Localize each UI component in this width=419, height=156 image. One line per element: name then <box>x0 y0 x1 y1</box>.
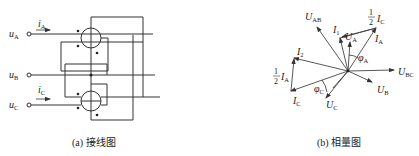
caption-b: (b) 相量图 <box>317 136 361 149</box>
angle-phi-a <box>349 55 358 58</box>
svg-text:uA: uA <box>9 28 19 40</box>
terminal-ua: uA <box>9 28 31 40</box>
terminal-uc: uC <box>9 99 31 111</box>
svg-text:2: 2 <box>369 18 373 27</box>
svg-text:1: 1 <box>369 8 373 17</box>
caption-a: (a) 接线图 <box>72 136 116 149</box>
current-ic-label: iC <box>36 84 50 99</box>
label-i2: I2 <box>296 46 304 58</box>
terminal-node-icon <box>27 32 31 36</box>
phasor-ubc <box>348 70 394 71</box>
phasor-ub <box>348 71 372 82</box>
phasor-diagram: UAB I1 UA IA 1 2 IC I2 1 2 IA IC UC UB U… <box>273 8 414 149</box>
current-ia-label: iA <box>36 18 50 30</box>
svg-text:1: 1 <box>274 67 278 76</box>
label-ia: IA <box>374 33 383 45</box>
label-uab: UAB <box>305 11 322 23</box>
terminal-ub: uB <box>9 69 31 81</box>
svg-text:uC: uC <box>9 99 18 111</box>
label-i1: I1 <box>332 24 340 36</box>
label-phi-a: φA <box>358 52 369 64</box>
phasor-ua <box>348 42 350 71</box>
svg-text:iC: iC <box>38 84 45 96</box>
label-uc: UC <box>326 99 338 111</box>
phasor-half-ia <box>291 59 294 91</box>
wattmeter-1 <box>77 28 101 54</box>
label-half-ia: 1 2 IA <box>273 67 289 86</box>
svg-text:IC: IC <box>376 13 385 25</box>
label-ub: UB <box>377 84 389 96</box>
terminal-node-icon <box>27 73 31 77</box>
svg-text:2: 2 <box>274 77 278 86</box>
label-ic: IC <box>292 95 301 107</box>
label-ua: UA <box>345 31 357 43</box>
label-half-ic: 1 2 IC <box>368 8 385 27</box>
wattmeter-2 <box>77 91 101 116</box>
wiring-diagram: uA iA uB uC iC <box>9 17 160 149</box>
label-ubc: UBC <box>398 66 414 78</box>
svg-text:uB: uB <box>9 69 19 81</box>
svg-text:iA: iA <box>38 18 46 30</box>
svg-text:IA: IA <box>280 71 289 83</box>
terminal-node-icon <box>27 103 31 107</box>
label-phi-c: φC <box>314 83 324 95</box>
